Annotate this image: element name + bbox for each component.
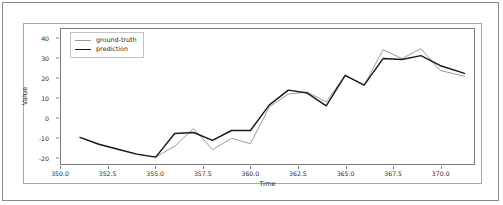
x-tick-mark: [108, 166, 109, 169]
x-axis-label: Time: [60, 180, 475, 188]
x-tick-label: 360.0: [242, 170, 260, 177]
y-tick-label: 40: [41, 35, 49, 42]
page-frame: -20-10010203040 350.0352.5355.0357.5360.…: [2, 2, 499, 201]
x-tick-mark: [203, 166, 204, 169]
x-tick-mark: [250, 166, 251, 169]
x-tick-label: 370.0: [432, 170, 450, 177]
y-tick-label: 20: [41, 75, 49, 82]
y-tick-mark: [56, 38, 59, 39]
y-axis-ticklabels: -20-10010203040: [3, 28, 56, 165]
x-tick-label: 357.5: [194, 170, 212, 177]
y-tick-label: -20: [39, 155, 49, 162]
y-tick-label: 0: [45, 115, 49, 122]
x-tick-label: 352.5: [99, 170, 117, 177]
x-tick-label: 355.0: [146, 170, 164, 177]
x-tick-mark: [346, 166, 347, 169]
y-tick-mark: [56, 78, 59, 79]
x-tick-mark: [393, 166, 394, 169]
chart-legend: ground-truth prediction: [70, 32, 144, 58]
x-tick-label: 365.0: [337, 170, 355, 177]
legend-item-prediction: prediction: [75, 45, 137, 54]
y-axis-label: Value: [21, 87, 29, 106]
series-line-prediction: [80, 56, 465, 157]
legend-item-ground-truth: ground-truth: [75, 36, 137, 45]
y-tick-mark: [56, 158, 59, 159]
legend-label-prediction: prediction: [96, 45, 128, 54]
x-tick-label: 362.5: [289, 170, 307, 177]
y-tick-mark: [56, 118, 59, 119]
legend-swatch-prediction: [75, 49, 91, 50]
x-tick-label: 367.5: [384, 170, 402, 177]
y-tick-mark: [56, 58, 59, 59]
legend-label-ground-truth: ground-truth: [96, 36, 137, 45]
y-tick-mark: [56, 138, 59, 139]
y-tick-mark: [56, 98, 59, 99]
legend-swatch-ground-truth: [75, 40, 91, 41]
x-axis-ticks: 350.0352.5355.0357.5360.0362.5365.0367.5…: [60, 166, 475, 180]
x-tick-mark: [298, 166, 299, 169]
x-tick-mark: [155, 166, 156, 169]
y-tick-label: 30: [41, 55, 49, 62]
y-tick-label: -10: [39, 135, 49, 142]
x-tick-mark: [441, 166, 442, 169]
y-tick-label: 10: [41, 95, 49, 102]
x-tick-label: 350.0: [51, 170, 69, 177]
x-tick-mark: [60, 166, 61, 169]
